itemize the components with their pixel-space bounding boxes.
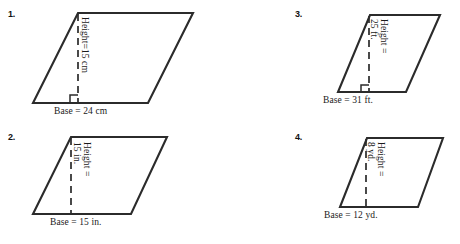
parallelogram-outline-1 [33, 13, 193, 103]
problem-3: 3. Height = 25 ft. Base = 31 ft. [230, 0, 460, 122]
parallelogram-outline-2 [33, 137, 167, 214]
problem-3-height-line-1: Height = [378, 19, 388, 53]
problem-1-height-label: Height=15 cm [79, 17, 89, 73]
problem-1-base-label: Base = 24 cm [54, 107, 107, 117]
problem-3-height-line-2: 25 ft. [368, 19, 378, 53]
problem-4: 4. Height = 8 yd. Base = 12 yd. [230, 122, 460, 244]
problem-2-height-line-2: 15 in. [71, 142, 81, 176]
problem-2-figure [0, 122, 230, 244]
problem-4-base-label: Base = 12 yd. [324, 211, 378, 221]
problem-4-figure [230, 122, 460, 244]
problem-2-base-label: Base = 15 in. [50, 218, 102, 228]
problem-4-height-label: Height = 8 yd. [365, 142, 385, 176]
worksheet-page: 1. Height=15 cm Base = 24 cm 2. Height =… [0, 0, 460, 244]
problem-4-height-line-2: 8 yd. [365, 142, 375, 176]
problem-2-height-label: Height = 15 in. [71, 142, 91, 176]
parallelogram-outline-4 [340, 138, 443, 207]
problem-2-height-line-1: Height = [81, 142, 91, 176]
problem-3-base-label: Base = 31 ft. [323, 96, 373, 106]
problem-1: 1. Height=15 cm Base = 24 cm [0, 0, 230, 122]
problem-1-figure [0, 0, 230, 122]
problem-4-height-line-1: Height = [375, 142, 385, 176]
right-angle-marker-1 [70, 95, 78, 103]
problem-3-height-label: Height = 25 ft. [368, 19, 388, 53]
problem-2: 2. Height = 15 in. Base = 15 in. [0, 122, 230, 244]
parallelogram-outline-3 [338, 15, 440, 92]
